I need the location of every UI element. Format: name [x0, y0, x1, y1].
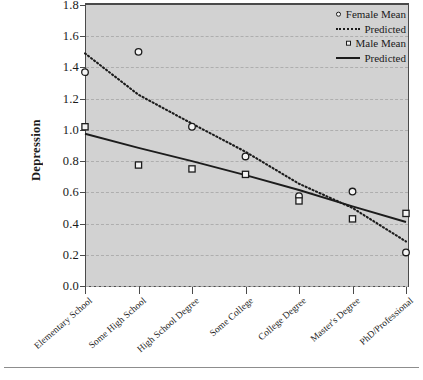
y-axis-tick-label: 0.6	[63, 185, 79, 200]
legend-key	[317, 8, 343, 20]
chart-legend: Female MeanPredictedMale MeanPredicted	[296, 7, 406, 65]
data-point-male-mean	[82, 124, 88, 130]
legend-item-label: Female Mean	[346, 7, 406, 22]
x-axis-tick-label-text: Master's Degree	[308, 294, 363, 344]
legend-item: Predicted	[296, 51, 406, 66]
y-axis-tick-label: 1.2	[63, 91, 79, 106]
legend-item-label: Predicted	[364, 51, 406, 66]
data-point-female-mean	[82, 69, 89, 76]
data-point-female-mean	[189, 123, 196, 130]
data-point-male-mean	[403, 210, 409, 216]
legend-item: Male Mean	[296, 36, 406, 51]
y-axis-tick-label: 0.8	[63, 154, 79, 169]
x-axis-tick-label-text: College Degree	[256, 294, 309, 342]
legend-dashed-line-icon	[336, 28, 360, 30]
series-line-female	[85, 53, 406, 241]
data-point-male-mean	[296, 198, 302, 204]
legend-solid-line-icon	[336, 57, 360, 59]
data-point-male-mean	[349, 216, 355, 222]
data-point-female-mean	[242, 153, 249, 160]
legend-circle-marker-icon	[336, 12, 341, 17]
legend-item: Female Mean	[296, 7, 406, 22]
x-axis-tick-label-text: PhD/Professional	[358, 294, 417, 347]
legend-key	[327, 37, 353, 49]
y-axis-tick-label: 1.0	[63, 122, 79, 137]
legend-key	[335, 52, 361, 64]
x-axis-tick-label: Some College	[207, 294, 256, 338]
y-axis-tick-label: 0.4	[63, 216, 79, 231]
legend-square-marker-icon	[346, 41, 351, 46]
x-axis-tick-label: Master's Degree	[308, 294, 363, 344]
figure-bottom-rule	[4, 367, 419, 368]
legend-key	[335, 23, 361, 35]
legend-item: Predicted	[296, 22, 406, 37]
data-point-female-mean	[349, 188, 356, 195]
legend-item-label: Predicted	[364, 22, 406, 37]
y-axis-tick-label: 1.6	[63, 29, 79, 44]
y-axis-tick-labels: 1.81.61.41.21.00.80.60.40.20.0	[38, 5, 79, 286]
data-point-female-mean	[403, 249, 410, 256]
y-axis-tick-label: 1.4	[63, 60, 79, 75]
x-axis-tick-label: College Degree	[256, 294, 309, 342]
data-point-male-mean	[135, 162, 141, 168]
legend-item-label: Male Mean	[356, 36, 406, 51]
x-axis-tick-labels: Elementary SchoolSome High SchoolHigh Sc…	[0, 286, 423, 380]
data-point-female-mean	[135, 49, 142, 56]
y-axis-tick-label: 1.8	[63, 0, 79, 13]
data-point-male-mean	[189, 166, 195, 172]
x-axis-tick-label: PhD/Professional	[358, 294, 417, 347]
chart-figure: Depression 1.81.61.41.21.00.80.60.40.20.…	[0, 0, 423, 380]
y-axis-tick-label: 0.2	[63, 247, 79, 262]
x-axis-tick-label-text: Some College	[207, 294, 256, 338]
data-point-male-mean	[242, 171, 248, 177]
